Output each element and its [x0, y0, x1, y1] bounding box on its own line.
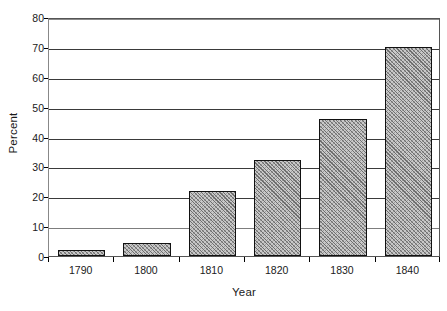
x-axis-tick-label: 1800: [134, 264, 157, 276]
x-axis-tick-label: 1840: [396, 264, 419, 276]
x-axis-tick-mark: [244, 257, 245, 262]
y-axis-tick-label: 40: [32, 132, 44, 144]
y-axis-tick-label: 30: [32, 161, 44, 173]
y-axis-tick-label: 10: [32, 221, 44, 233]
x-axis-title: Year: [48, 286, 440, 298]
y-axis-title-text: Percent: [7, 112, 19, 153]
x-axis-tick-label: 1790: [69, 264, 92, 276]
x-axis-tick-mark: [179, 257, 180, 262]
y-axis-tick-label: 80: [32, 12, 44, 24]
x-axis-tick-mark: [439, 257, 440, 262]
x-axis-tick-label: 1810: [200, 264, 223, 276]
y-axis-tick-labels: 01020304050607080: [22, 0, 44, 265]
bar-1810: [189, 191, 236, 256]
x-axis-tick-mark: [309, 257, 310, 262]
plot-area: [48, 18, 440, 257]
x-axis-tick-label: 1830: [330, 264, 353, 276]
bar-1840: [385, 47, 432, 256]
bar-chart-figure: Percent 01020304050607080 17901800181018…: [0, 0, 447, 311]
y-axis-tick-label: 20: [32, 191, 44, 203]
x-axis-tick-marks: [48, 257, 440, 263]
y-axis-tick-label: 60: [32, 72, 44, 84]
bar-1820: [254, 160, 301, 256]
y-axis-tick-label: 50: [32, 102, 44, 114]
x-axis-tick-labels: 179018001810182018301840: [48, 264, 440, 280]
y-axis-tick-label: 70: [32, 42, 44, 54]
x-axis-tick-label: 1820: [265, 264, 288, 276]
x-axis-tick-mark: [48, 257, 49, 262]
bar-1800: [123, 243, 170, 256]
x-axis-tick-mark: [113, 257, 114, 262]
bars-layer: [49, 19, 439, 256]
x-axis-tick-mark: [375, 257, 376, 262]
bar-1830: [319, 119, 366, 256]
bar-1790: [58, 250, 105, 256]
